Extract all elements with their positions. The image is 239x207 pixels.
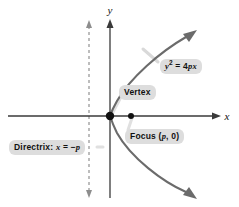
y-axis-arrow-icon — [107, 19, 114, 28]
vertex-point — [106, 112, 114, 120]
vertex-label: Vertex — [119, 85, 156, 100]
focus-label: Focus (p, 0) — [125, 129, 184, 144]
directrix-label-variable-p: p — [76, 142, 80, 152]
directrix-label-prefix: Directrix: — [14, 142, 56, 152]
equation-label-variables: px — [188, 61, 197, 71]
leader-line-equation — [143, 49, 158, 62]
focus-label-suffix: , 0) — [166, 131, 179, 141]
equation-label-equals: = 4 — [173, 61, 188, 71]
vertex-label-text: Vertex — [124, 87, 151, 97]
directrix-label: Directrix: x = −p — [9, 140, 85, 155]
x-axis-group: x — [8, 110, 230, 122]
y-axis-group: y — [107, 4, 114, 198]
focus-label-prefix: Focus ( — [130, 131, 162, 141]
leader-line-vertex — [112, 97, 121, 114]
x-axis-arrow-icon — [212, 113, 221, 120]
directrix-line-group — [86, 20, 92, 198]
equation-label: y2 = 4px — [160, 59, 202, 74]
diagram-canvas: x y — [0, 0, 239, 207]
directrix-arrow-bottom-icon — [86, 190, 92, 198]
parabola-curve-group — [110, 30, 197, 199]
parabola-diagram: x y y2 = 4px Vertex Focus (p, 0) Directr… — [0, 0, 239, 207]
x-axis-label: x — [224, 110, 230, 122]
focus-point — [128, 113, 134, 119]
parabola-arrow-upper-icon — [183, 30, 197, 42]
y-axis-label: y — [107, 4, 113, 16]
directrix-arrow-top-icon — [86, 20, 92, 28]
parabola-arrow-lower-icon — [183, 187, 197, 199]
directrix-label-equals: = − — [60, 142, 75, 152]
